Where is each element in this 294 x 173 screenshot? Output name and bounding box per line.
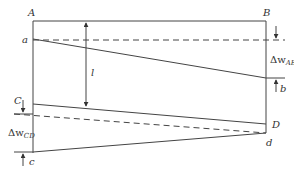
line-CD: [33, 104, 266, 124]
label-delta-w-ab: ΔwAB: [270, 54, 294, 67]
deflection-diagram: A B a b l C D c d ΔwAB ΔwCD: [0, 0, 294, 173]
label-delta-w-cd: ΔwCD: [8, 127, 35, 140]
label-b: b: [280, 83, 286, 94]
label-d: d: [266, 137, 272, 148]
line-cd-slope: [33, 133, 266, 152]
label-A: A: [27, 7, 35, 18]
label-l: l: [91, 67, 94, 78]
line-ab: [33, 39, 266, 78]
label-c: c: [29, 156, 35, 167]
label-D: D: [271, 119, 280, 130]
dashed-line-cd-reference: [14, 114, 266, 133]
label-C: C: [14, 95, 22, 106]
label-B: B: [262, 7, 270, 18]
label-a: a: [22, 34, 28, 45]
